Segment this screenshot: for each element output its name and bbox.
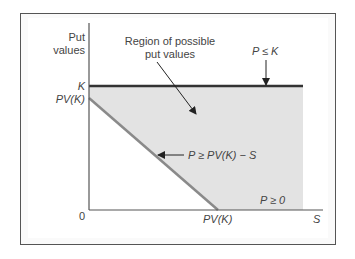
lower-bound-label: P ≥ PV(K) − S [188,149,256,162]
x-axis-label: S [313,213,320,226]
y-tick-pvk: PV(K) [30,93,85,106]
region-label-line2: put values [105,48,235,61]
y-axis-label-put: Put [40,31,85,44]
y-tick-k: K [40,80,85,93]
nonnegative-label: P ≥ 0 [260,194,285,207]
x-tick-pvk: PV(K) [203,213,232,226]
region-label-line1: Region of possible [105,35,235,48]
y-axis-label-values: values [40,44,85,57]
origin-label: 0 [79,210,85,223]
upper-bound-label: P ≤ K [252,45,278,58]
